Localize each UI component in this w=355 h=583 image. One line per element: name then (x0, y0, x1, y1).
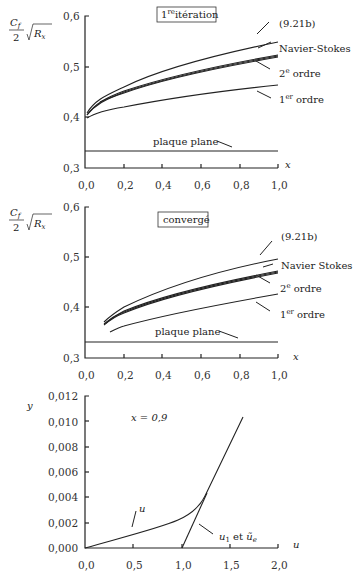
svg-text:Rx: Rx (33, 218, 46, 231)
annotation-x-equals: x = 0,9 (131, 412, 168, 423)
x-tick: 0,6 (194, 179, 211, 191)
x-tick: 0,2 (117, 369, 134, 381)
x-tick: 0,0 (78, 369, 95, 381)
curve-u1-ue (182, 493, 207, 548)
y-tick-0.5: 0,5 (63, 251, 80, 263)
label-u1-et-ue: u1 et ũe (219, 531, 257, 544)
curve-2e-ordre-b (106, 272, 278, 323)
label-1er-ordre: 1er ordre (279, 93, 324, 105)
label-u: u (139, 503, 145, 514)
y-tick: 0,008 (48, 441, 78, 453)
label-plaque-plane: plaque plane (155, 326, 221, 337)
y-tick-0.6: 0,6 (63, 10, 80, 22)
label-2e-ordre: 2e ordre (280, 282, 322, 294)
x-tick: 0,2 (117, 179, 134, 191)
x-axis-label: x (285, 159, 291, 170)
x-axis-label: x (293, 351, 299, 362)
label-1er-ordre: 1er ordre (280, 308, 325, 320)
chart-2-converged: Cf 2 Rx 0,6 0,5 0,4 0,3 x 0,0 0,2 0,4 0,… (9, 201, 352, 381)
x-tick: 0,6 (194, 369, 211, 381)
x-tick: 0,5 (126, 559, 143, 571)
label-navier-stokes: Navier Stokes (281, 260, 352, 271)
y-tick: 0,004 (48, 491, 78, 503)
ylabel-cf: Cf (10, 17, 22, 30)
curve-navier-stokes (104, 271, 278, 324)
y-tick-0.3: 0,3 (63, 162, 80, 174)
chart-1-first-iteration: Cf 2 Rx 0,6 0,5 0,4 0,3 x 0,0 0,2 0,4 0,… (9, 7, 351, 191)
chart-2-y-axis-label: Cf 2 Rx (9, 207, 52, 233)
label-9-21b: (9.21b) (281, 231, 318, 242)
x-tick: 2,0 (271, 559, 288, 571)
x-tick: 1,0 (175, 559, 192, 571)
x-tick: 1,0 (271, 369, 288, 381)
x-tick: 0,4 (155, 179, 172, 191)
y-tick-0.3: 0,3 (63, 352, 80, 364)
x-tick: 0,8 (233, 179, 250, 191)
y-tick-0.5: 0,5 (63, 61, 80, 73)
ylabel-rx: Rx (33, 28, 46, 41)
x-tick: 0,0 (78, 559, 95, 571)
svg-text:Cf: Cf (10, 207, 22, 220)
y-tick: 0,010 (48, 416, 78, 428)
y-tick: 0,000 (48, 542, 78, 554)
x-tick: 0,8 (233, 369, 250, 381)
chart-2-title: convergé (163, 214, 210, 225)
x-tick: 0,4 (155, 369, 172, 381)
chart-3-velocity-profile: y 0,012 0,010 0,008 0,006 0,004 0,002 0,… (26, 390, 299, 571)
y-tick-0.6: 0,6 (63, 201, 80, 213)
y-tick-0.4: 0,4 (63, 301, 80, 313)
y-tick: 0,006 (48, 466, 78, 478)
x-axis-label: u (293, 539, 299, 550)
y-axis-label: y (26, 400, 33, 411)
y-tick: 0,002 (48, 517, 78, 529)
curve-1er-ordre (87, 85, 278, 118)
chart-3-axes (85, 396, 278, 548)
figure-canvas: Cf 2 Rx 0,6 0,5 0,4 0,3 x 0,0 0,2 0,4 0,… (0, 0, 355, 583)
y-tick: 0,012 (48, 390, 78, 402)
label-plaque-plane: plaque plane (153, 136, 219, 147)
svg-text:2: 2 (13, 222, 19, 233)
x-tick: 1,5 (223, 559, 240, 571)
chart-1-y-axis-label: Cf 2 Rx (9, 17, 52, 43)
curve-u (85, 417, 243, 548)
label-9-21b: (9.21b) (279, 18, 316, 29)
curve-navier-stokes (87, 55, 278, 115)
label-navier-stokes: Navier-Stokes (279, 43, 351, 54)
ylabel-denominator: 2 (13, 32, 19, 43)
label-2e-ordre: 2e ordre (279, 67, 321, 79)
x-tick: 1,0 (271, 179, 288, 191)
x-tick: 0,0 (78, 179, 95, 191)
curve-9-21b (87, 42, 278, 113)
y-tick-0.4: 0,4 (63, 111, 80, 123)
